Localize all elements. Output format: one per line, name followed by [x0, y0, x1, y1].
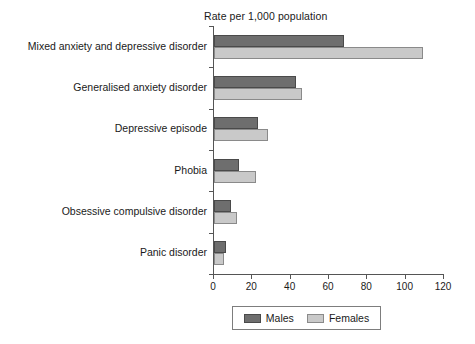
- x-axis-tick-label: 80: [346, 281, 386, 292]
- x-axis-tick-label: 60: [308, 281, 348, 292]
- x-axis-tick-label: 40: [270, 281, 310, 292]
- bar-females-4: [214, 212, 237, 224]
- legend-item-males[interactable]: Males: [244, 312, 294, 324]
- x-axis-tick-label: 120: [423, 281, 463, 292]
- plot-area: 020406080100120: [213, 26, 444, 274]
- bar-males-2: [214, 117, 258, 129]
- y-axis-tick: [209, 67, 213, 68]
- bar-females-0: [214, 47, 423, 59]
- y-axis-line: [213, 26, 214, 274]
- bar-females-1: [214, 88, 302, 100]
- category-label: Generalised anxiety disorder: [0, 81, 207, 93]
- category-label: Mixed anxiety and depressive disorder: [0, 40, 207, 52]
- legend-item-females[interactable]: Females: [307, 312, 369, 324]
- males-swatch: [244, 314, 261, 323]
- y-axis-tick: [209, 191, 213, 192]
- y-axis-tick: [209, 26, 213, 27]
- bar-females-3: [214, 171, 256, 183]
- x-axis-tick: [290, 275, 291, 279]
- x-axis-tick-label: 100: [385, 281, 425, 292]
- x-axis-tick: [443, 275, 444, 279]
- females-swatch: [307, 314, 324, 323]
- x-axis-tick: [366, 275, 367, 279]
- bar-males-0: [214, 35, 344, 47]
- x-axis-tick-label: 20: [231, 281, 271, 292]
- bar-males-5: [214, 241, 226, 253]
- bar-males-1: [214, 76, 296, 88]
- category-label: Obsessive compulsive disorder: [0, 205, 207, 217]
- category-label: Phobia: [0, 164, 207, 176]
- category-label: Depressive episode: [0, 122, 207, 134]
- legend-label: Males: [266, 312, 294, 324]
- x-axis-tick-label: 0: [193, 281, 233, 292]
- x-axis-title: Rate per 1,000 population: [204, 10, 327, 22]
- x-axis-tick: [213, 275, 214, 279]
- y-axis-tick: [209, 150, 213, 151]
- category-label: Panic disorder: [0, 246, 207, 258]
- x-axis-tick: [328, 275, 329, 279]
- y-axis-tick: [209, 274, 213, 275]
- bar-males-3: [214, 159, 239, 171]
- x-axis-tick: [405, 275, 406, 279]
- chart-legend: MalesFemales: [232, 306, 381, 330]
- y-axis-tick: [209, 233, 213, 234]
- bar-males-4: [214, 200, 231, 212]
- x-axis-tick: [251, 275, 252, 279]
- bar-chart: Rate per 1,000 population 02040608010012…: [0, 0, 475, 344]
- legend-label: Females: [329, 312, 369, 324]
- bar-females-2: [214, 129, 268, 141]
- y-axis-tick: [209, 109, 213, 110]
- bar-females-5: [214, 253, 224, 265]
